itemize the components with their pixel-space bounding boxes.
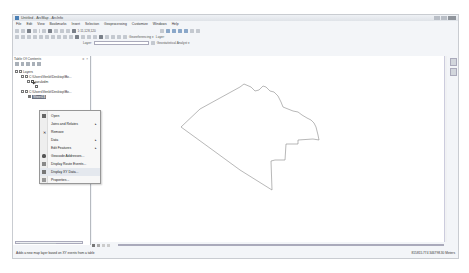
hyperlink-icon[interactable] (105, 35, 109, 39)
cut-icon[interactable] (42, 29, 46, 33)
toc-horizontal-scrollbar[interactable] (15, 241, 83, 244)
collapse-icon[interactable] (21, 75, 24, 78)
list-by-source-icon[interactable] (21, 62, 25, 66)
catalog-icon[interactable] (172, 29, 176, 33)
time-slider-icon[interactable] (117, 35, 121, 39)
arcmap-app-icon (15, 16, 19, 20)
toc-pin-close[interactable]: ⨯ × (82, 57, 88, 61)
catalog-dock-tab[interactable] (450, 58, 457, 66)
menu-selection[interactable]: Selection (85, 22, 99, 27)
modelbuilder-icon[interactable] (196, 29, 200, 33)
collapse-icon[interactable] (21, 90, 24, 93)
tree-label-selected[interactable]: Sheet1$ (32, 95, 46, 99)
ctx-item-display-xy-data[interactable]: Display XY Data... (40, 168, 100, 176)
menu-windows[interactable]: Windows (153, 22, 167, 27)
ctx-item-joins-and-relates[interactable]: Joins and Relates ▸ (40, 120, 100, 128)
select-elements-icon[interactable] (75, 35, 79, 39)
add-data-icon[interactable] (72, 29, 76, 33)
create-viewer-icon[interactable] (123, 35, 127, 39)
pan-icon[interactable] (27, 35, 31, 39)
polygon-feature[interactable] (181, 84, 319, 190)
menu-customize[interactable]: Customize (132, 22, 148, 27)
layer-visibility-checkbox[interactable] (31, 80, 34, 83)
new-document-icon[interactable] (15, 29, 19, 33)
fixed-zoom-in-icon[interactable] (39, 35, 43, 39)
identify-icon[interactable] (81, 35, 85, 39)
close-button[interactable] (448, 16, 456, 21)
menu-edit[interactable]: Edit (26, 22, 32, 27)
go-to-xy-icon[interactable] (93, 35, 97, 39)
layer-tool-icon[interactable] (151, 41, 155, 45)
table-icon (28, 95, 31, 98)
ctx-item-geocode-addresses[interactable]: Geocode Addresses... (40, 152, 100, 160)
python-icon[interactable] (190, 29, 194, 33)
list-by-drawing-order-icon[interactable] (15, 62, 19, 66)
ctx-item-properties[interactable]: Properties... (40, 176, 100, 184)
menu-help[interactable]: Help (172, 22, 179, 27)
route-icon (42, 162, 45, 165)
layout-view-icon[interactable] (97, 244, 100, 247)
ctx-item-edit-features[interactable]: Edit Features ▸ (40, 144, 100, 152)
menu-bookmarks[interactable]: Bookmarks (50, 22, 67, 27)
measure-icon[interactable] (99, 35, 103, 39)
undo-icon[interactable] (60, 29, 64, 33)
map-vertical-scrollbar[interactable] (444, 56, 447, 242)
open-icon[interactable] (21, 29, 25, 33)
maximize-button[interactable] (441, 16, 447, 21)
find-icon[interactable] (87, 35, 91, 39)
copy-icon[interactable] (48, 29, 52, 33)
print-icon[interactable] (33, 29, 37, 33)
map-view[interactable] (92, 56, 444, 242)
menu-insert[interactable]: Insert (72, 22, 80, 27)
scrollbar-thumb[interactable] (20, 243, 56, 245)
georeferencing-menu[interactable]: Georeferencing ▾ (129, 35, 154, 39)
folder-icon (25, 90, 28, 93)
ctx-item-remove[interactable]: ✕ Remove (40, 128, 100, 136)
data-view-icon[interactable] (92, 244, 95, 247)
html-popup-icon[interactable] (111, 35, 115, 39)
map-canvas[interactable] (92, 56, 444, 242)
refresh-icon[interactable] (102, 244, 105, 247)
ctx-item-display-route-events[interactable]: Display Route Events... (40, 160, 100, 168)
list-by-selection-icon[interactable] (32, 62, 36, 66)
tree-item-table[interactable]: Sheet1$ (15, 94, 72, 99)
status-coordinates: 815815.774 346798.30 Meters (412, 251, 455, 255)
full-extent-icon[interactable] (33, 35, 37, 39)
forward-extent-icon[interactable] (57, 35, 61, 39)
menu-view[interactable]: View (37, 22, 44, 27)
zoom-in-icon[interactable] (15, 35, 19, 39)
collapse-icon[interactable] (15, 70, 18, 73)
map-horizontal-scrollbar[interactable] (118, 244, 444, 247)
status-message: Adds a new map layer based on XY events … (16, 251, 95, 255)
save-icon[interactable] (27, 29, 31, 33)
ctx-item-open[interactable]: Open (40, 112, 100, 120)
list-by-visibility-icon[interactable] (26, 62, 30, 66)
search-dock-tab[interactable] (450, 68, 457, 76)
menu-geoprocessing[interactable]: Geoprocessing (104, 22, 127, 27)
polygon-symbol-icon[interactable] (35, 85, 38, 88)
geostatistical-analyst-menu[interactable]: Geostatistical Analyst ▾ (157, 41, 190, 45)
clear-selection-icon[interactable] (69, 35, 73, 39)
editor-icon[interactable] (160, 29, 164, 33)
minimize-button[interactable] (434, 16, 440, 21)
map-scale-value[interactable]: 1:11,128,120 (78, 29, 96, 33)
delete-icon[interactable] (54, 29, 58, 33)
zoom-out-icon[interactable] (21, 35, 25, 39)
layer-label: Layer: (83, 41, 92, 45)
arctoolbox-icon[interactable] (184, 29, 188, 33)
layer-dropdown[interactable] (94, 41, 149, 45)
layers-icon (19, 70, 22, 73)
redo-icon[interactable] (66, 29, 70, 33)
back-extent-icon[interactable] (51, 35, 55, 39)
collapse-icon[interactable] (27, 80, 30, 83)
pause-drawing-icon[interactable] (107, 244, 110, 247)
search-window-icon[interactable] (178, 29, 182, 33)
fixed-zoom-out-icon[interactable] (45, 35, 49, 39)
select-by-rectangle-icon[interactable] (63, 35, 67, 39)
submenu-arrow-icon: ▸ (95, 122, 97, 126)
toc-options-icon[interactable] (37, 62, 41, 66)
ctx-item-data[interactable]: Data ▸ (40, 136, 100, 144)
menu-file[interactable]: File (16, 22, 21, 27)
layer-toolbar: Layer: Geostatistical Analyst ▾ (83, 40, 190, 46)
table-of-contents-icon[interactable] (166, 29, 170, 33)
